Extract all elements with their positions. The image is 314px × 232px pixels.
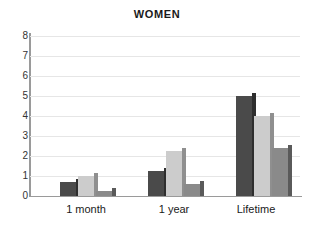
y-tick-label-0: 0 <box>8 191 28 201</box>
bar <box>254 116 270 196</box>
gridline-8 <box>30 36 300 37</box>
bar-top-face <box>112 188 116 191</box>
bar-chart: WOMEN 8 7 6 5 4 3 2 1 0 1 month 1 year L… <box>0 0 314 232</box>
bar <box>148 171 164 196</box>
bar-front-face <box>236 96 252 196</box>
bar-front-face <box>78 176 94 196</box>
y-axis-tick-labels: 8 7 6 5 4 3 2 1 0 <box>0 0 28 232</box>
y-tick-label-5: 5 <box>8 91 28 101</box>
plot-area <box>30 36 300 196</box>
y-tick-label-7: 7 <box>8 51 28 61</box>
bar-front-face <box>184 184 200 196</box>
y-tick-label-2: 2 <box>8 151 28 161</box>
bar-front-face <box>96 191 112 196</box>
bar-top-face <box>200 181 204 184</box>
bar-top-face <box>288 145 292 148</box>
bar-front-face <box>272 148 288 196</box>
x-axis-line <box>30 196 302 197</box>
bar-side-face <box>200 184 204 196</box>
category-label-1-month: 1 month <box>36 203 136 215</box>
y-tick-label-3: 3 <box>8 131 28 141</box>
bar <box>78 176 94 196</box>
y-tick-label-8: 8 <box>8 31 28 41</box>
bar-front-face <box>254 116 270 196</box>
bar-top-face <box>252 93 256 96</box>
bar <box>236 96 252 196</box>
bar-side-face <box>288 148 292 196</box>
bar-front-face <box>166 151 182 196</box>
category-label-lifetime: Lifetime <box>206 203 306 215</box>
bar <box>184 184 200 196</box>
bar-front-face <box>148 171 164 196</box>
bar <box>272 148 288 196</box>
bar-top-face <box>94 173 98 176</box>
bar <box>96 191 112 196</box>
gridline-6 <box>30 76 300 77</box>
bar-front-face <box>60 182 76 196</box>
y-tick-label-1: 1 <box>8 171 28 181</box>
y-tick-label-6: 6 <box>8 71 28 81</box>
bar <box>166 151 182 196</box>
bar <box>60 182 76 196</box>
bar-side-face <box>112 191 116 196</box>
bar-top-face <box>270 113 274 116</box>
bar-top-face <box>182 148 186 151</box>
chart-title: WOMEN <box>0 8 314 20</box>
gridline-5 <box>30 96 300 97</box>
gridline-7 <box>30 56 300 57</box>
y-tick-label-4: 4 <box>8 111 28 121</box>
